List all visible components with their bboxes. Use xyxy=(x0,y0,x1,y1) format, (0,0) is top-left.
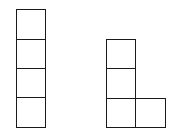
l-tetromino-square-1 xyxy=(106,39,137,69)
l-tetromino-square-3 xyxy=(106,98,137,128)
l-tetromino-square-4 xyxy=(135,98,166,128)
l-tetromino-square-2 xyxy=(106,68,137,99)
i-tetromino-square-1 xyxy=(16,9,46,40)
i-tetromino-square-2 xyxy=(16,39,46,69)
i-tetromino-square-4 xyxy=(16,97,46,128)
i-tetromino-square-3 xyxy=(16,68,46,98)
